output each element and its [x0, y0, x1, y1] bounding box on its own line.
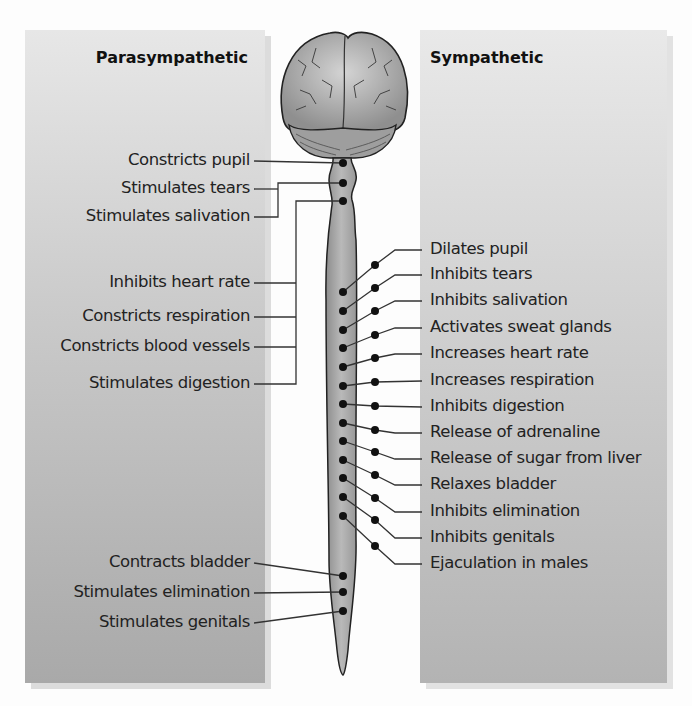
- sympathetic-effect-label: Inhibits tears: [430, 264, 532, 284]
- parasympathetic-effect-label: Stimulates tears: [121, 178, 250, 198]
- sympathetic-effect-label: Inhibits digestion: [430, 396, 564, 416]
- sympathetic-heading: Sympathetic: [430, 48, 543, 67]
- parasympathetic-effect-label: Stimulates genitals: [99, 612, 250, 632]
- sympathetic-effect-label: Increases heart rate: [430, 343, 588, 363]
- parasympathetic-effect-label: Inhibits heart rate: [109, 272, 250, 292]
- parasympathetic-effect-label: Stimulates elimination: [73, 582, 250, 602]
- parasympathetic-effect-label: Constricts pupil: [128, 150, 250, 170]
- parasympathetic-effect-label: Constricts blood vessels: [60, 336, 250, 356]
- sympathetic-effect-label: Ejaculation in males: [430, 553, 588, 573]
- sympathetic-effect-label: Inhibits elimination: [430, 501, 580, 521]
- sympathetic-effect-label: Inhibits salivation: [430, 290, 568, 310]
- sympathetic-effect-label: Relaxes bladder: [430, 474, 556, 494]
- parasympathetic-effect-label: Constricts respiration: [82, 306, 250, 326]
- sympathetic-effect-label: Activates sweat glands: [430, 317, 611, 337]
- parasympathetic-heading: Parasympathetic: [96, 48, 248, 67]
- sympathetic-effect-label: Inhibits genitals: [430, 527, 554, 547]
- sympathetic-effect-label: Dilates pupil: [430, 239, 528, 259]
- parasympathetic-effect-label: Contracts bladder: [109, 552, 250, 572]
- sympathetic-effect-label: Release of adrenaline: [430, 422, 600, 442]
- brain-icon: [281, 32, 407, 158]
- sympathetic-effect-label: Release of sugar from liver: [430, 448, 641, 468]
- parasympathetic-effect-label: Stimulates salivation: [86, 206, 250, 226]
- spinal-cord: [326, 158, 357, 675]
- sympathetic-effect-label: Increases respiration: [430, 370, 594, 390]
- parasympathetic-effect-label: Stimulates digestion: [89, 373, 250, 393]
